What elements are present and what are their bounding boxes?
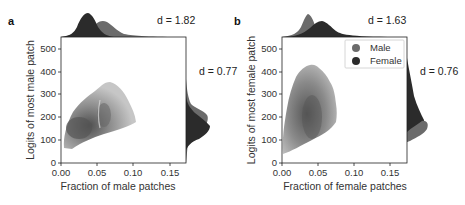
panel-label: b	[234, 15, 241, 27]
y-tick-label: 200	[261, 111, 277, 122]
y-tick-label: 100	[261, 134, 277, 145]
x-tick-label: 0.05	[309, 167, 328, 178]
x-tick-label: 0.10	[124, 167, 143, 178]
y-tick-label: 500	[40, 43, 56, 54]
y-tick-label: 500	[261, 43, 277, 54]
panel-b: b d = 1.63 d = 0.76 Male Female	[234, 14, 458, 192]
y-axis: 0 100 200 300 400 500 Logits of most fem…	[245, 36, 282, 168]
y-tick-label: 300	[40, 88, 56, 99]
y-axis-label: Logits of most female patch	[245, 36, 257, 165]
density-plot	[64, 82, 136, 149]
female-marker-icon	[352, 57, 360, 65]
legend: Male Female	[345, 40, 404, 68]
effect-size-top: d = 1.82	[157, 14, 195, 26]
figure: a d = 1.82 d = 0.77	[0, 0, 465, 205]
right-marginal	[186, 79, 210, 163]
x-axis: 0.00 0.05 0.10 0.15 Fraction of female p…	[273, 163, 407, 192]
x-axis-label: Fraction of female patches	[283, 180, 407, 192]
male-marker-icon	[352, 44, 360, 52]
y-tick-label: 300	[261, 88, 277, 99]
legend-female: Female	[370, 55, 402, 66]
x-tick-label: 0.10	[345, 167, 364, 178]
effect-size-right: d = 0.76	[420, 65, 458, 77]
legend-male: Male	[370, 42, 391, 53]
y-tick-label: 100	[40, 134, 56, 145]
x-axis: 0.00 0.05 0.10 0.15 Fraction of male pat…	[52, 163, 180, 192]
x-tick-label: 0.05	[88, 167, 107, 178]
effect-size-right: d = 0.77	[199, 65, 237, 77]
y-axis-label: Logits of most male patch	[24, 40, 36, 160]
panel-label: a	[8, 15, 15, 27]
density-plot	[283, 65, 337, 154]
panel-a: a d = 1.82 d = 0.77	[8, 13, 237, 192]
y-tick-label: 400	[40, 66, 56, 77]
y-tick-label: 200	[40, 111, 56, 122]
x-axis-label: Fraction of male patches	[61, 180, 176, 192]
x-tick-label: 0.15	[161, 167, 180, 178]
effect-size-top: d = 1.63	[368, 14, 406, 26]
x-tick-label: 0.00	[52, 167, 71, 178]
y-axis: 0 100 200 300 400 500 Logits of most mal…	[24, 40, 61, 168]
x-tick-label: 0.15	[381, 167, 400, 178]
x-tick-label: 0.00	[273, 167, 292, 178]
y-tick-label: 400	[261, 66, 277, 77]
